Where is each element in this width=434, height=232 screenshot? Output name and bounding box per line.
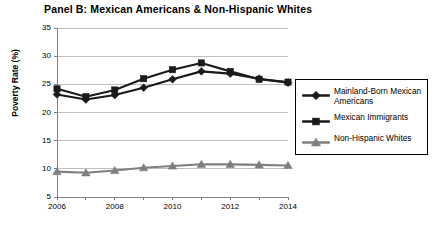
legend-item: Mexican Immigrants: [302, 112, 428, 124]
y-tick-label: 5: [29, 193, 51, 201]
data-series-layer: [53, 60, 292, 176]
x-tick-label: 2010: [156, 203, 190, 211]
data-point-marker: [112, 87, 118, 93]
legend-item: Mainland-Born Mexican Americans: [302, 86, 428, 106]
x-tick-label: 2008: [98, 203, 132, 211]
data-point-marker: [198, 60, 204, 66]
data-point-marker: [141, 76, 147, 82]
legend-label: Non-Hispanic Whites: [334, 133, 428, 143]
chart-legend: Mainland-Born Mexican AmericansMexican I…: [295, 79, 428, 155]
x-tick-label: 2012: [213, 203, 247, 211]
y-tick-label: 25: [29, 80, 51, 88]
y-tick-label: 15: [29, 137, 51, 145]
data-point-marker: [198, 68, 206, 76]
data-point-marker: [169, 75, 177, 83]
y-tick-label: 30: [29, 52, 51, 60]
data-point-marker: [169, 67, 175, 73]
x-tick-label: 2014: [271, 203, 305, 211]
data-point-marker: [83, 94, 89, 100]
legend-marker-triangle-icon: [302, 134, 330, 145]
y-tick-label: 35: [29, 24, 51, 32]
y-tick-label: 10: [29, 165, 51, 173]
x-tick-label: 2006: [40, 203, 74, 211]
data-point-marker: [256, 76, 262, 82]
chart-figure: Panel B: Mexican Americans & Non-Hispani…: [0, 0, 434, 232]
legend-item: Non-Hispanic Whites: [302, 133, 428, 145]
data-point-marker: [285, 79, 291, 85]
legend-marker-square-icon: [302, 113, 330, 124]
data-point-marker: [140, 84, 148, 92]
data-point-marker: [227, 68, 233, 74]
legend-label: Mexican Immigrants: [334, 112, 428, 122]
legend-marker-diamond-icon: [302, 87, 330, 98]
y-tick-label: 20: [29, 109, 51, 117]
legend-label: Mainland-Born Mexican Americans: [334, 86, 428, 106]
data-series: [53, 160, 292, 176]
data-point-marker: [54, 86, 60, 92]
